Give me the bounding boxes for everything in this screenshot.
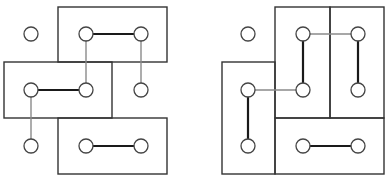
node-circle <box>24 83 38 97</box>
right-diagram <box>222 7 384 174</box>
node-circle <box>241 83 255 97</box>
node-circle <box>134 27 148 41</box>
node-circle <box>24 27 38 41</box>
node-circle <box>134 83 148 97</box>
node-circle <box>79 83 93 97</box>
node-circle <box>296 139 310 153</box>
left-diagram <box>4 7 167 174</box>
node-circle <box>351 139 365 153</box>
node-circle <box>241 139 255 153</box>
diagram-canvas <box>0 0 388 189</box>
node-circle <box>79 139 93 153</box>
node-circle <box>134 139 148 153</box>
node-circle <box>296 83 310 97</box>
node-circle <box>296 27 310 41</box>
node-circle <box>351 27 365 41</box>
node-circle <box>24 139 38 153</box>
node-circle <box>241 27 255 41</box>
node-circle <box>79 27 93 41</box>
node-circle <box>351 83 365 97</box>
